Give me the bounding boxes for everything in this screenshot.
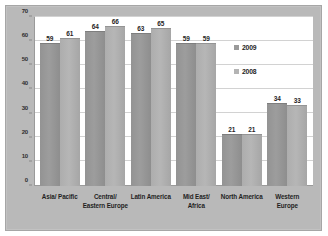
gridline: [35, 136, 313, 137]
x-axis-category-label: Central/Eastern Europe: [83, 188, 129, 224]
gridline: [35, 112, 313, 113]
x-axis-category-label: WesternEurope: [265, 188, 311, 224]
x-axis-category-label: Latin America: [128, 188, 174, 224]
y-axis-tick-mark: [29, 185, 32, 186]
legend-label: 2008: [242, 68, 256, 75]
plot-area: [34, 17, 313, 186]
y-axis-tick-mark: [29, 16, 32, 17]
chart-figure: 010203040506070 596164666365595921213433…: [0, 0, 328, 236]
y-axis-tick-mark: [29, 40, 32, 41]
y-axis-tick-label: 50: [22, 56, 28, 62]
y-axis-tick-mark: [29, 160, 32, 161]
chart-legend: 20092008: [234, 44, 294, 92]
legend-item-2008[interactable]: 2008: [234, 68, 294, 75]
gridline: [35, 16, 313, 17]
y-axis-tick-label: 10: [22, 153, 28, 159]
y-axis-tick-mark: [29, 112, 32, 113]
y-axis: 010203040506070: [6, 17, 32, 186]
x-axis-category-label: Asia/ Pacific: [37, 188, 83, 224]
y-axis-tick-label: 30: [22, 105, 28, 111]
chart-frame: 010203040506070 596164666365595921213433…: [5, 5, 322, 231]
y-axis-tick-label: 0: [25, 177, 28, 183]
legend-swatch-icon: [234, 69, 239, 74]
x-axis-category-label: Mid East/Africa: [174, 188, 220, 224]
gridline: [35, 40, 313, 41]
y-axis-tick-label: 60: [22, 32, 28, 38]
y-axis-tick-mark: [29, 88, 32, 89]
y-axis-tick-label: 20: [22, 129, 28, 135]
legend-label: 2009: [242, 44, 256, 51]
y-axis-tick-label: 70: [22, 8, 28, 14]
legend-swatch-icon: [234, 45, 239, 50]
y-axis-tick-label: 40: [22, 80, 28, 86]
legend-item-2009[interactable]: 2009: [234, 44, 294, 51]
x-axis: Asia/ PacificCentral/Eastern EuropeLatin…: [34, 188, 313, 224]
y-axis-tick-mark: [29, 64, 32, 65]
x-axis-category-label: North America: [219, 188, 265, 224]
y-axis-tick-mark: [29, 136, 32, 137]
gridline: [35, 160, 313, 161]
